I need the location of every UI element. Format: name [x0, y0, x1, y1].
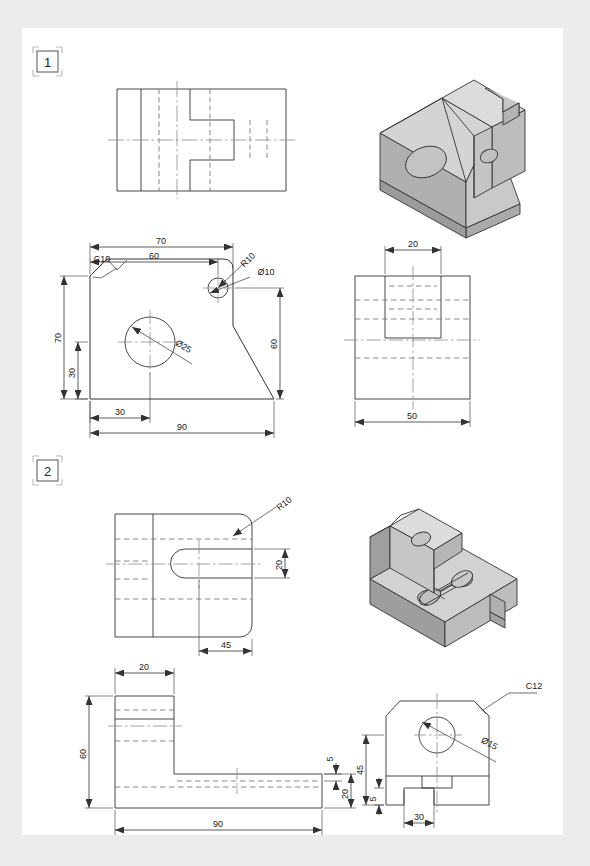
dim-label-90: 90 [177, 422, 187, 432]
dim-e2-30: 30 [404, 790, 434, 828]
dim-dia10: Ø10 [210, 267, 275, 293]
exercise-1-marker: 1 [33, 47, 62, 76]
dim-e2-5: 5 [324, 756, 342, 790]
dim-label-e2-r10: R10 [275, 495, 294, 513]
dim-e2-20-right: 20 [254, 549, 290, 578]
dim-e2-20-bottom: 20 [324, 774, 356, 808]
dim-label-e2-20r: 20 [274, 560, 284, 570]
dim-label-e2-5v: 5 [368, 796, 378, 801]
ex1-side-view: 20 50 [344, 239, 480, 427]
ex1-front-view: 70 60 C10 R10 Ø10 70 [53, 236, 284, 438]
dim-label-e2-c12: C12 [526, 681, 543, 691]
dim-c10-chamfer: C10 [93, 254, 127, 278]
dim-e2-5v: 5 [368, 778, 384, 815]
dim-label-50: 50 [407, 411, 417, 421]
ex2-front-view: 20 60 5 20 90 [78, 662, 356, 835]
ex1-isometric-view [380, 80, 525, 238]
dim-label-e2-90: 90 [213, 819, 223, 829]
dim-30-vertical: 30 [67, 342, 88, 399]
technical-drawing: 1 [22, 28, 563, 835]
dim-e2-c12: C12 [477, 681, 542, 714]
dim-r10: R10 [218, 251, 257, 288]
dim-label-c10: C10 [94, 254, 111, 264]
exercise-2-marker: 2 [33, 456, 62, 485]
dim-label-e2-5: 5 [325, 756, 335, 761]
dim-e2-r10: R10 [233, 495, 294, 536]
dim-label-e2-45: 45 [221, 640, 231, 650]
dim-label-e2-30: 30 [414, 812, 424, 822]
dim-label-70: 70 [156, 236, 166, 246]
dim-e2-60: 60 [78, 696, 113, 808]
dim-label-r10: R10 [239, 251, 258, 270]
ex2-side-view: C12 Ø15 45 5 30 [355, 681, 542, 828]
dim-e2-20-top: 20 [115, 662, 174, 694]
dim-70-top: 70 [90, 236, 233, 274]
dim-label-60v: 60 [269, 339, 279, 349]
dim-label-e2-20t: 20 [139, 662, 149, 672]
dim-70-vertical: 70 [53, 276, 88, 399]
dim-e2-45v: 45 [355, 735, 384, 805]
dim-30-horizontal: 30 [90, 373, 150, 423]
exercise-1-number: 1 [44, 55, 51, 70]
dim-label-e2-45v: 45 [355, 765, 365, 775]
dim-label-dia10: Ø10 [257, 267, 274, 277]
dim-dia25: Ø25 [132, 327, 193, 364]
dim-label-e2-60: 60 [78, 749, 88, 759]
dim-e2-45: 45 [199, 580, 252, 656]
exercise-2-number: 2 [44, 464, 51, 479]
dim-label-70v: 70 [53, 333, 63, 343]
drawing-sheet: 1 [22, 28, 563, 835]
dim-e2-dia15: Ø15 [422, 722, 499, 762]
ex2-isometric-view [370, 509, 517, 647]
dim-label-20top: 20 [408, 239, 418, 249]
dim-50: 50 [355, 401, 470, 427]
dim-e2-90: 90 [115, 810, 322, 835]
ex2-top-view: R10 20 45 [106, 495, 294, 656]
dim-label-e2-20b: 20 [340, 789, 350, 799]
dim-label-60: 60 [149, 251, 159, 261]
dim-label-30v: 30 [67, 368, 77, 378]
ex1-top-view [108, 81, 295, 199]
dim-label-dia25: Ø25 [174, 338, 194, 355]
dim-label-30h: 30 [115, 407, 125, 417]
